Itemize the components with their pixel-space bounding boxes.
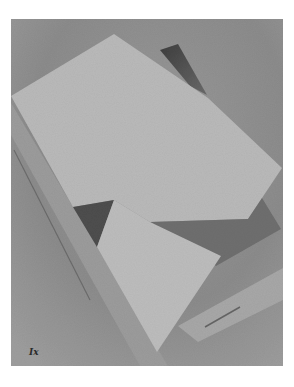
artwork-canvas bbox=[0, 0, 294, 387]
plate-label: Ix bbox=[29, 347, 39, 357]
abstract-artwork: Ix bbox=[0, 0, 294, 387]
